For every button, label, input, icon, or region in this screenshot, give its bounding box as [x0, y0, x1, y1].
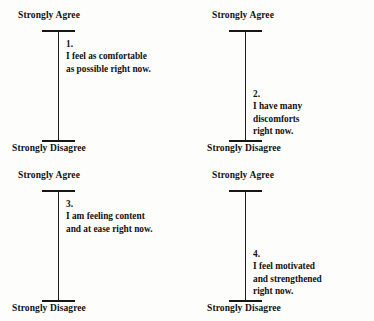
scale-tick-bottom — [42, 140, 75, 142]
scale-item-3: Strongly Agree Strongly Disagree 3. I am… — [0, 160, 187, 320]
anchor-label-strongly-disagree: Strongly Disagree — [12, 303, 86, 313]
anchor-label-strongly-disagree: Strongly Disagree — [207, 303, 281, 313]
scale-tick-bottom — [229, 140, 262, 142]
statement-text: I am feeling content and at ease right n… — [66, 210, 153, 235]
scale-item-1: Strongly Agree Strongly Disagree 1. I fe… — [0, 0, 187, 160]
statement-line: right now. — [253, 285, 322, 297]
scale-tick-bottom — [229, 300, 262, 302]
statement-line: right now. — [253, 125, 302, 137]
anchor-label-strongly-agree: Strongly Agree — [212, 10, 274, 20]
statement-text: I feel as comfortable as possible right … — [66, 50, 151, 75]
scale-tick-bottom — [42, 300, 75, 302]
statement-line: I am feeling content — [66, 210, 153, 222]
statement-line: and strengthened — [253, 273, 322, 285]
anchor-label-strongly-agree: Strongly Agree — [18, 10, 80, 20]
statement-number: 4. — [253, 248, 260, 260]
statement-4: 4. I feel motivated and strengthened rig… — [253, 248, 322, 298]
statement-number: 3. — [66, 198, 73, 210]
scale-line[interactable] — [245, 191, 246, 301]
statement-line: I have many — [253, 100, 302, 112]
statement-line: I feel motivated — [253, 260, 322, 272]
statement-3: 3. I am feeling content and at ease righ… — [66, 198, 153, 235]
scale-line[interactable] — [245, 31, 246, 141]
statement-line: I feel as comfortable — [66, 50, 151, 62]
questionnaire-sheet: Strongly Agree Strongly Disagree 1. I fe… — [0, 0, 374, 321]
anchor-label-strongly-agree: Strongly Agree — [212, 170, 274, 180]
anchor-label-strongly-disagree: Strongly Disagree — [207, 143, 281, 153]
scale-item-4: Strongly Agree Strongly Disagree 4. I fe… — [187, 160, 374, 320]
anchor-label-strongly-agree: Strongly Agree — [18, 170, 80, 180]
scale-item-2: Strongly Agree Strongly Disagree 2. I ha… — [187, 0, 374, 160]
scale-line[interactable] — [58, 31, 59, 141]
statement-number: 2. — [253, 88, 260, 100]
statement-line: as possible right now. — [66, 63, 151, 75]
statement-line: discomforts — [253, 113, 302, 125]
statement-line: and at ease right now. — [66, 223, 153, 235]
scale-line[interactable] — [58, 191, 59, 301]
statement-2: 2. I have many discomforts right now. — [253, 88, 302, 138]
statement-1: 1. I feel as comfortable as possible rig… — [66, 38, 151, 75]
statement-number: 1. — [66, 38, 73, 50]
anchor-label-strongly-disagree: Strongly Disagree — [12, 143, 86, 153]
statement-text: I feel motivated and strengthened right … — [253, 260, 322, 297]
statement-text: I have many discomforts right now. — [253, 100, 302, 137]
